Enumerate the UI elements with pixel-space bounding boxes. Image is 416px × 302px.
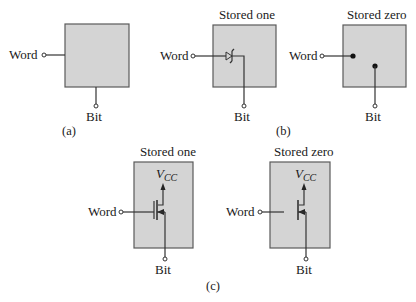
- cell-box: [65, 24, 129, 87]
- panel-c-stored-zero: Stored zero VCC Word Bit (c): [206, 144, 334, 293]
- caption-c: (c): [206, 279, 220, 293]
- bit-terminal-icon: [94, 104, 98, 108]
- bit-label: Bit: [296, 262, 312, 277]
- caption-b: (b): [276, 124, 291, 138]
- bit-label: Bit: [86, 109, 102, 124]
- caption-a: (a): [62, 124, 76, 138]
- word-node-dot-icon: [350, 53, 355, 58]
- word-terminal-icon: [258, 210, 262, 214]
- stored-zero-title: Stored zero: [347, 7, 407, 22]
- word-label: Word: [9, 47, 38, 62]
- word-label: Word: [88, 204, 117, 219]
- word-terminal-icon: [42, 53, 46, 57]
- panel-b-stored-zero: Stored zero Word Bit (b): [276, 7, 407, 138]
- word-label: Word: [226, 204, 255, 219]
- panel-a-generic-cell: Word Bit (a): [9, 24, 129, 138]
- stored-zero-title: Stored zero: [274, 144, 334, 159]
- bit-terminal-icon: [242, 104, 246, 108]
- rom-cell-diagram: Word Bit (a) Stored one Word Bit Stored …: [0, 0, 416, 302]
- word-terminal-icon: [320, 54, 324, 58]
- word-label: Word: [289, 48, 318, 63]
- bit-terminal-icon: [304, 257, 308, 261]
- bit-label: Bit: [155, 262, 171, 277]
- bit-label: Bit: [365, 109, 381, 124]
- panel-c-stored-one: Stored one VCC Word Bit: [88, 144, 196, 277]
- bit-terminal-icon: [163, 257, 167, 261]
- word-terminal-icon: [191, 54, 195, 58]
- word-label: Word: [160, 48, 189, 63]
- panel-b-stored-one: Stored one Word Bit: [160, 7, 276, 124]
- word-terminal-icon: [119, 210, 123, 214]
- stored-one-title: Stored one: [219, 7, 275, 22]
- bit-label: Bit: [234, 109, 250, 124]
- stored-one-title: Stored one: [140, 144, 196, 159]
- bit-terminal-icon: [373, 104, 377, 108]
